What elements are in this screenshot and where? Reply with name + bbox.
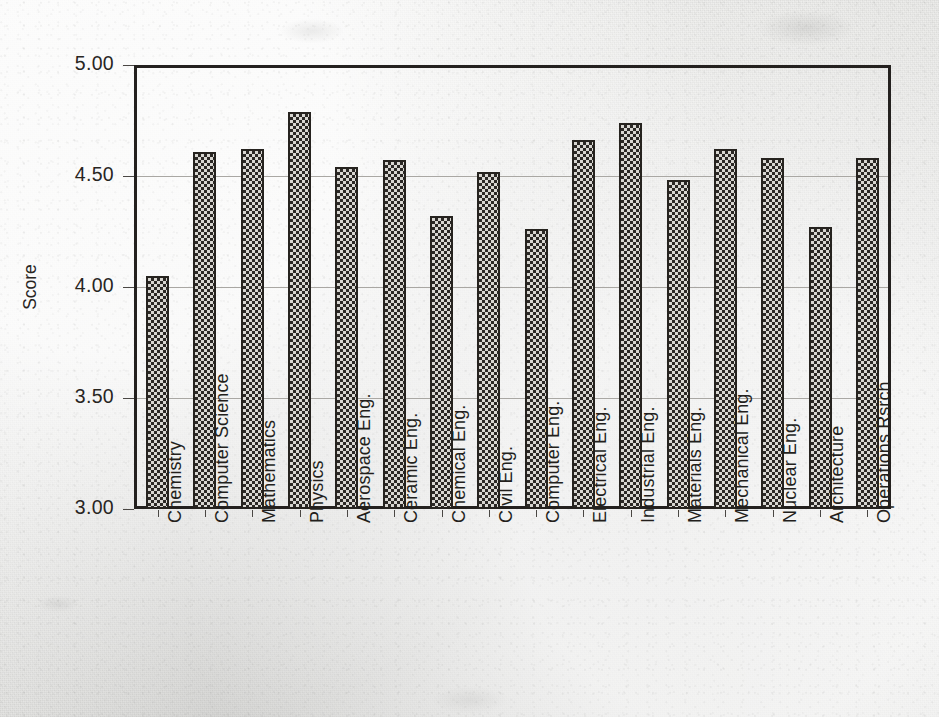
x-tick-label: Mechanical Eng. bbox=[732, 388, 753, 523]
x-tick-mark bbox=[158, 510, 159, 517]
x-tick-mark bbox=[536, 510, 537, 517]
x-tick-label: Industrial Eng. bbox=[638, 406, 659, 523]
x-tick-mark bbox=[489, 510, 490, 517]
x-tick-label: Electrical Eng. bbox=[590, 406, 611, 523]
x-tick-label: Computer Science bbox=[212, 373, 233, 523]
x-tick-mark bbox=[394, 510, 395, 517]
bar-chart: 3.003.504.004.505.00 Score ChemistryComp… bbox=[0, 0, 939, 717]
x-tick-label: Architecture bbox=[827, 426, 848, 523]
x-tick-label: Physics bbox=[307, 460, 328, 523]
x-tick-label: Civil Eng. bbox=[496, 446, 517, 523]
x-tick-mark bbox=[773, 510, 774, 517]
x-tick-label: Chemical Eng. bbox=[449, 405, 470, 523]
x-tick-mark bbox=[300, 510, 301, 517]
x-tick-label: Chemistry bbox=[165, 441, 186, 523]
x-tick-mark bbox=[867, 510, 868, 517]
y-tick-label: 3.50 bbox=[0, 385, 136, 408]
y-tick-label: 5.00 bbox=[0, 52, 136, 75]
x-tick-mark bbox=[820, 510, 821, 517]
x-tick-label: Materials Eng. bbox=[685, 407, 706, 523]
x-tick-mark bbox=[678, 510, 679, 517]
x-tick-mark bbox=[442, 510, 443, 517]
x-tick-mark bbox=[583, 510, 584, 517]
x-tick-mark bbox=[725, 510, 726, 517]
x-tick-label: Aerospace Eng. bbox=[354, 394, 375, 523]
x-tick-label: Ceramic Eng. bbox=[401, 413, 422, 523]
x-tick-mark bbox=[205, 510, 206, 517]
y-axis-label: Score bbox=[20, 264, 41, 310]
bar bbox=[288, 112, 311, 509]
y-tick-label: 4.50 bbox=[0, 163, 136, 186]
x-tick-label: Computer Eng. bbox=[543, 401, 564, 523]
x-tick-mark bbox=[347, 510, 348, 517]
x-tick-label: Nuclear Eng. bbox=[780, 418, 801, 523]
x-tick-label: Mathematics bbox=[259, 420, 280, 523]
y-tick-label: 3.00 bbox=[0, 496, 136, 519]
x-tick-label: Operations Rsrch bbox=[874, 381, 895, 523]
x-tick-mark bbox=[631, 510, 632, 517]
x-tick-mark bbox=[252, 510, 253, 517]
